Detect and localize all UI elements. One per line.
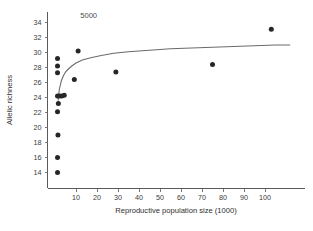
x-axis-tick-label: 60	[177, 193, 185, 202]
data-point	[72, 77, 77, 82]
y-axis-title: Allelic richness	[5, 75, 14, 125]
x-axis-tick-label: 90	[240, 193, 248, 202]
y-axis-tick-label: 26	[34, 78, 42, 87]
chart-svg: 1416182022242628303234 10203040506070809…	[0, 0, 313, 231]
data-point	[55, 109, 60, 114]
data-point	[269, 27, 274, 32]
y-axis-tick-label: 30	[34, 48, 42, 57]
annotation-5000: 5000	[80, 11, 97, 20]
data-point	[62, 93, 67, 98]
y-axis-tick-label: 20	[34, 123, 42, 132]
data-point	[56, 101, 61, 106]
x-axis-tick-label: 40	[135, 193, 143, 202]
y-axis-tick-label: 34	[34, 18, 42, 27]
y-axis-tick-label: 24	[34, 93, 42, 102]
data-point	[55, 56, 60, 61]
data-point	[55, 170, 60, 175]
y-axis-tick-label: 28	[34, 63, 42, 72]
y-axis-tick-label: 14	[34, 168, 42, 177]
x-axis-tick-label: 10	[72, 193, 80, 202]
y-axis-tick-label: 16	[34, 153, 42, 162]
y-axis-tick-label: 32	[34, 33, 42, 42]
y-axis-tick-label: 18	[34, 138, 42, 147]
data-point	[210, 62, 215, 67]
x-axis-title: Reproductive population size (1000)	[115, 206, 237, 215]
x-axis-tick-label: 50	[156, 193, 164, 202]
x-axis-tick-label: 80	[219, 193, 227, 202]
scatter-plot-figure: 1416182022242628303234 10203040506070809…	[0, 0, 313, 231]
x-axis-tick-label: 100	[259, 193, 271, 202]
data-point	[55, 155, 60, 160]
data-point	[76, 49, 81, 54]
x-axis-tick-label: 20	[93, 193, 101, 202]
data-point	[55, 133, 60, 138]
data-point	[113, 70, 118, 75]
y-axis-tick-label: 22	[34, 108, 42, 117]
data-point	[55, 64, 60, 69]
x-axis-tick-label: 30	[114, 193, 122, 202]
data-point	[55, 70, 60, 75]
x-axis-tick-label: 70	[198, 193, 206, 202]
